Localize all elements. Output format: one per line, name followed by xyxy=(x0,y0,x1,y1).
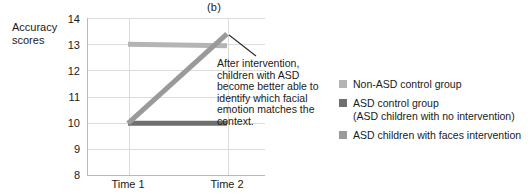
legend-swatch-icon-asd-control xyxy=(339,99,347,107)
x-tick-time-2: Time 2 xyxy=(197,178,257,190)
chart-annotation: After intervention, children with ASD be… xyxy=(217,58,321,128)
legend-item-non-asd-control: Non-ASD control group xyxy=(339,78,527,90)
y-tick-9: 9 xyxy=(58,144,80,155)
panel-label: (b) xyxy=(207,1,221,13)
y-tick-11: 11 xyxy=(58,92,80,103)
legend-label-asd-faces-intervention: ASD children with faces intervention xyxy=(353,129,521,141)
legend-sublabel-asd-control: (ASD children with no intervention) xyxy=(353,110,527,122)
legend-item-asd-faces-intervention: ASD children with faces intervention xyxy=(339,129,527,141)
y-tick-12: 12 xyxy=(58,66,80,77)
y-tick-10: 10 xyxy=(58,118,80,129)
x-tick-time-1: Time 1 xyxy=(98,178,158,190)
legend-label-non-asd-control: Non-ASD control group xyxy=(353,78,462,90)
y-tick-14: 14 xyxy=(58,14,80,25)
figure-panel: (b) Accuracy scores 14 13 12 11 10 9 8 A… xyxy=(0,0,531,196)
legend-swatch-icon-asd-faces-intervention xyxy=(339,131,347,139)
y-tick-8: 8 xyxy=(58,170,80,181)
legend-swatch-icon-non-asd-control xyxy=(339,80,347,88)
legend-label-asd-control: ASD control group xyxy=(353,97,439,109)
legend-item-asd-control: ASD control group (ASD children with no … xyxy=(339,97,527,122)
legend: Non-ASD control group ASD control group … xyxy=(339,78,527,149)
y-tick-13: 13 xyxy=(58,40,80,51)
